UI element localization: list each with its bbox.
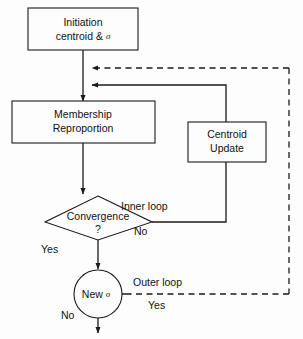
node-centroid-update-line2: Update — [210, 142, 244, 154]
node-initiation-line1: Initiation — [63, 16, 102, 28]
flowchart-canvas: Initiation centroid & σ Membership Repro… — [0, 0, 303, 339]
node-new-sigma-text: New — [82, 288, 103, 300]
node-initiation: Initiation centroid & σ — [28, 8, 138, 50]
node-initiation-line2-text: centroid & — [56, 30, 103, 42]
node-membership-line1: Membership — [54, 108, 112, 120]
node-initiation-line2: centroid & σ — [56, 30, 111, 42]
node-new-sigma: New σ — [74, 270, 122, 318]
edge-label-convergence-yes: Yes — [41, 243, 58, 255]
node-convergence-question-mark: ? — [95, 223, 101, 235]
edge-label-inner-loop-no: No — [134, 225, 148, 237]
edge-label-inner-loop: Inner loop — [121, 200, 168, 212]
node-membership-reproportion: Membership Reproportion — [12, 101, 155, 143]
node-membership-line2: Reproportion — [53, 122, 114, 134]
node-centroid-update: Centroid Update — [188, 122, 266, 162]
node-convergence-label: Convergence — [67, 210, 130, 222]
edge-convergence-no-to-centroid — [152, 162, 226, 222]
edge-label-outer-loop: Outer loop — [133, 276, 182, 288]
edge-label-outer-loop-yes: Yes — [148, 299, 165, 311]
node-centroid-update-line1: Centroid — [207, 128, 247, 140]
flowchart-diagram: Initiation centroid & σ Membership Repro… — [0, 0, 303, 339]
sigma-symbol-icon: σ — [106, 31, 111, 41]
sigma-symbol-icon-2: σ — [106, 289, 111, 299]
node-new-sigma-label: New σ — [82, 288, 111, 300]
edge-label-new-sigma-no: No — [61, 309, 75, 321]
